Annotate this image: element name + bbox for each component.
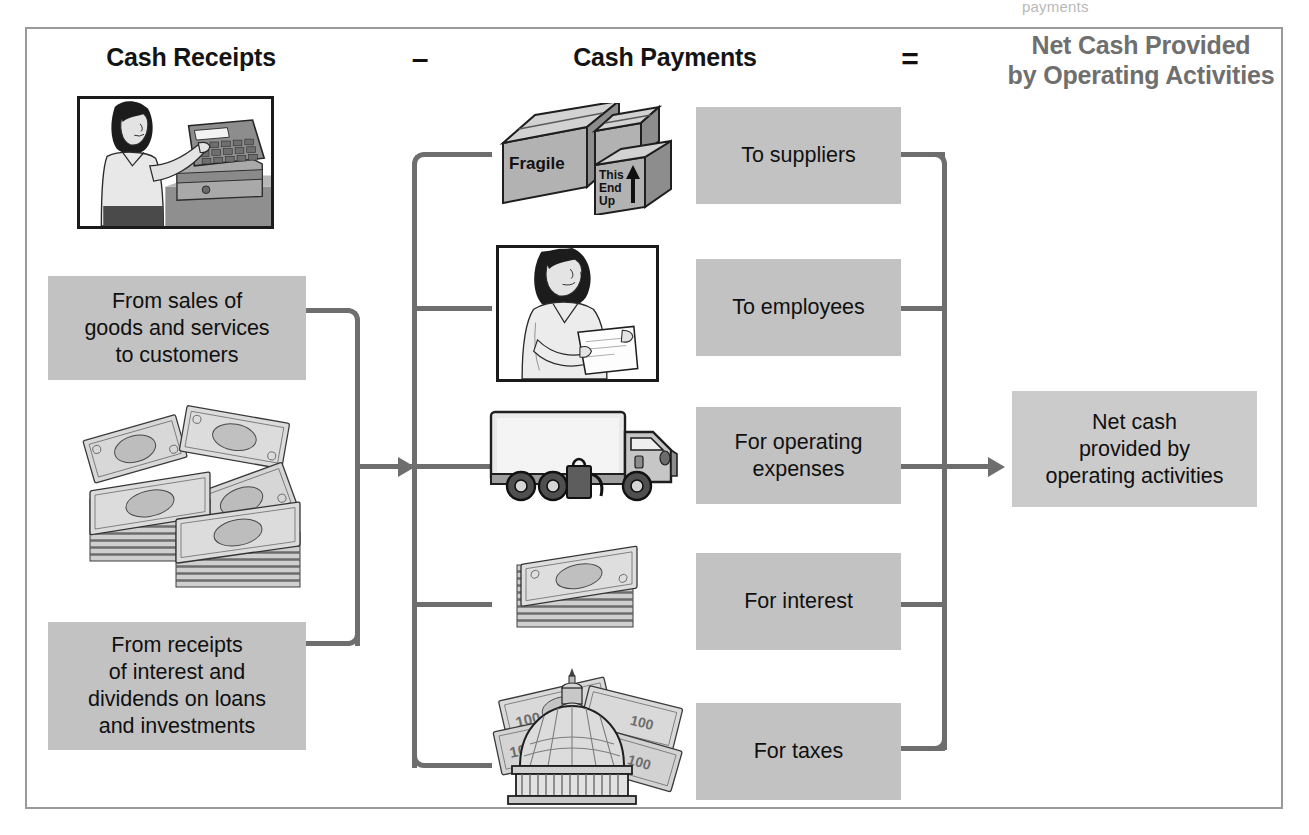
arrow-to-net-cash [988, 457, 1005, 477]
receipt-box-sales: From sales of goods and services to cust… [48, 276, 306, 380]
box-label-up: Up [599, 194, 615, 208]
bill-stack-illustration [505, 545, 653, 645]
payment-box-operating-expenses: For operating expenses [696, 407, 901, 504]
result-box-net-cash-label: Net cash provided by operating activitie… [1045, 409, 1223, 490]
box-label-fragile: Fragile [509, 154, 565, 173]
result-box-net-cash: Net cash provided by operating activitie… [1012, 391, 1257, 507]
shipping-boxes-illustration: Fragile This End Up [495, 103, 680, 215]
heading-cash-payments: Cash Payments [520, 42, 810, 72]
payment-box-interest-label: For interest [744, 588, 853, 615]
out-stub-operating [901, 464, 947, 469]
receipt-box-interest-dividends-label: From receipts of interest and dividends … [88, 632, 266, 740]
bracket-stub-employees [412, 306, 492, 311]
out-bracket-spine [942, 170, 947, 750]
diagram-page: payments Cash Receipts – Cash Payments =… [0, 0, 1309, 835]
bracket-stub-operating [412, 464, 492, 469]
connector-receipts-spine [355, 326, 360, 646]
delivery-truck-illustration [485, 398, 681, 503]
equals-operator: = [890, 44, 930, 74]
payment-box-employees: To employees [696, 259, 901, 356]
out-stub-employees [901, 306, 947, 311]
payment-box-employees-label: To employees [732, 294, 865, 321]
out-stub-interest [901, 602, 947, 607]
employee-paycheck-illustration [496, 245, 659, 382]
ghost-bleed-text: payments [1022, 0, 1089, 15]
receipt-box-sales-label: From sales of goods and services to cust… [84, 288, 269, 369]
heading-net-cash-line1: Net Cash Provided [985, 30, 1297, 60]
payment-box-suppliers-label: To suppliers [741, 142, 856, 169]
minus-operator: – [400, 44, 440, 74]
receipt-box-interest-dividends: From receipts of interest and dividends … [48, 622, 306, 750]
cash-register-clerk-illustration [77, 96, 274, 229]
out-stub-taxes [901, 746, 945, 751]
payment-box-operating-expenses-label: For operating expenses [735, 429, 863, 483]
bracket-stub-interest [412, 602, 492, 607]
payment-box-suppliers: To suppliers [696, 107, 901, 204]
capitol-dome-money-illustration: 100 100 100 100 [462, 662, 684, 808]
heading-cash-receipts: Cash Receipts [52, 42, 330, 72]
money-stacks-illustration [64, 405, 308, 595]
connector-receipt2-out [306, 641, 350, 646]
bracket-left-spine [412, 170, 417, 768]
bracket-stub-suppliers [430, 152, 492, 157]
payment-box-interest: For interest [696, 553, 901, 650]
payment-box-taxes-label: For taxes [754, 738, 844, 765]
payment-box-taxes: For taxes [696, 703, 901, 800]
box-label-this: This [599, 168, 624, 182]
heading-net-cash-line2: by Operating Activities [985, 60, 1297, 90]
box-label-end: End [599, 181, 622, 195]
